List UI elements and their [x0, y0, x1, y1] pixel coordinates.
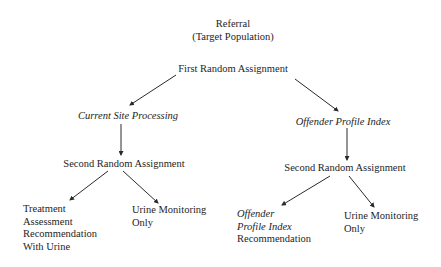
leaf-line: Only — [344, 223, 418, 236]
leaf-urine-monitoring-only-right: Urine Monitoring Only — [344, 210, 418, 235]
first-random-assignment-node: First Random Assignment — [178, 62, 288, 75]
edge-first-to-current-site — [130, 75, 176, 105]
current-site-processing-node: Current Site Processing — [78, 109, 178, 122]
edge-first-to-offender-profile — [295, 79, 338, 111]
edge-second-left-to-urine-only — [123, 171, 158, 203]
leaf-line: Assessment — [23, 216, 97, 229]
leaf-line: Only — [132, 217, 206, 230]
leaf-line: Profile Index — [237, 221, 311, 234]
edge-second-right-to-opi-recommendation — [282, 176, 330, 205]
leaf-line: Recommendation — [23, 228, 97, 241]
leaf-urine-monitoring-only-left: Urine Monitoring Only — [132, 204, 206, 229]
second-random-assignment-left-node: Second Random Assignment — [63, 157, 184, 170]
second-random-assignment-right-node: Second Random Assignment — [284, 161, 405, 174]
root-title: Referral — [192, 17, 274, 30]
edge-second-right-to-urine-only — [349, 176, 374, 207]
leaf-line: Treatment — [23, 203, 97, 216]
leaf-line: Recommendation — [237, 233, 311, 246]
root-subtitle: (Target Population) — [192, 30, 274, 43]
leaf-opi-recommendation: Offender Profile Index Recommendation — [237, 208, 311, 246]
root-node: Referral (Target Population) — [192, 17, 274, 43]
leaf-line: Urine Monitoring — [344, 210, 418, 223]
leaf-line: Urine Monitoring — [132, 204, 206, 217]
leaf-line: With Urine — [23, 241, 97, 254]
random-assignment-diagram: Referral (Target Population) First Rando… — [0, 0, 441, 267]
edge-second-left-to-treatment — [70, 171, 108, 200]
leaf-treatment-assessment: Treatment Assessment Recommendation With… — [23, 203, 97, 253]
leaf-line: Offender — [237, 208, 311, 221]
offender-profile-index-node: Offender Profile Index — [296, 115, 391, 128]
